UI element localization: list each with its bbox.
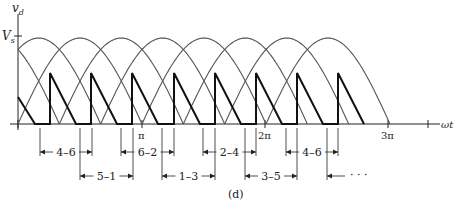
y-axis-label: vd xyxy=(12,1,24,17)
interval-bracket: 2–4 xyxy=(203,128,256,159)
svg-text:4–6: 4–6 xyxy=(302,146,322,159)
sine-arcs xyxy=(18,38,390,124)
svg-text:6–2: 6–2 xyxy=(138,146,158,159)
tick-label-pi: π xyxy=(138,130,145,141)
figure-caption: (d) xyxy=(228,188,244,201)
rectifier-waveform-diagram: 4–66–22–44–65–11–33–5 · · · vd Vs ωt π 2… xyxy=(0,0,457,204)
svg-text:· · ·: · · · xyxy=(350,169,367,182)
interval-bracket: 4–6 xyxy=(40,128,92,159)
svg-text:5–1: 5–1 xyxy=(97,170,117,183)
vs-label: Vs xyxy=(2,29,15,45)
x-axis-label: ωt xyxy=(441,119,454,130)
tick-label-3pi: 3π xyxy=(381,130,394,141)
svg-text:1–3: 1–3 xyxy=(179,170,199,183)
conduction-intervals: 4–66–22–44–65–11–33–5 · · · xyxy=(40,128,367,183)
output-waveform xyxy=(18,73,364,124)
continuation-arrow: · · · xyxy=(327,128,367,182)
interval-bracket: 5–1 xyxy=(80,128,133,183)
interval-bracket: 4–6 xyxy=(286,128,338,159)
interval-bracket: 3–5 xyxy=(245,128,297,183)
interval-bracket: 1–3 xyxy=(162,128,215,183)
tick-label-2pi: 2π xyxy=(258,130,271,141)
svg-text:2–4: 2–4 xyxy=(220,146,240,159)
svg-text:3–5: 3–5 xyxy=(261,170,281,183)
interval-bracket: 6–2 xyxy=(121,128,174,159)
svg-text:4–6: 4–6 xyxy=(56,146,76,159)
